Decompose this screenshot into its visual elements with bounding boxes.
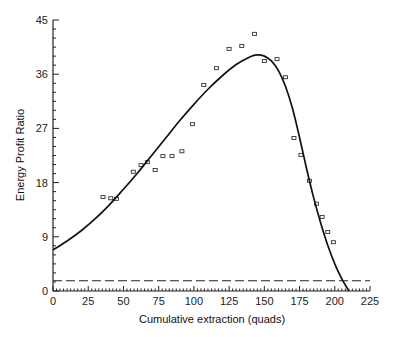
x-tick-label: 0 [50,295,56,307]
plot-area [53,32,370,291]
data-point-square-marker [180,150,184,153]
x-tick-label: 150 [255,295,273,307]
data-point-square-marker [131,170,135,173]
y-tick-label: 36 [36,68,48,80]
data-point-square-marker [252,32,256,35]
data-point-square-marker [227,47,231,50]
data-point-square-marker [326,230,330,233]
data-point-square-marker [161,155,165,158]
data-point-square-marker [101,196,105,199]
data-point-square-marker [170,155,174,158]
data-point-square-marker [292,137,296,140]
axes: 09182736450255075100125150175200225 [36,14,379,307]
x-tick-label: 75 [153,295,165,307]
x-axis-title: Cumulative extraction (quads) [139,313,285,325]
data-point-square-marker [299,153,303,156]
data-point-square-marker [283,76,287,79]
x-tick-label: 175 [290,295,308,307]
x-tick-label: 100 [185,295,203,307]
fitted-curve [53,55,349,291]
energy-profit-chart: 09182736450255075100125150175200225 Cumu… [0,0,393,337]
x-tick-label: 225 [361,295,379,307]
y-tick-label: 18 [36,177,48,189]
x-tick-label: 50 [117,295,129,307]
data-point-square-marker [190,123,194,126]
data-point-square-marker [331,241,335,244]
data-point-square-marker [109,197,113,200]
x-tick-label: 125 [220,295,238,307]
y-tick-label: 27 [36,122,48,134]
data-point-square-marker [214,67,218,70]
data-point-square-marker [262,59,266,62]
data-point-square-marker [320,215,324,218]
data-point-square-marker [275,58,279,61]
data-point-square-marker [240,44,244,47]
y-tick-label: 9 [42,231,48,243]
y-axis-title: Energy Profit Ratio [14,109,26,201]
y-tick-label: 0 [42,285,48,297]
x-tick-label: 25 [82,295,94,307]
x-tick-label: 200 [326,295,344,307]
y-tick-label: 45 [36,14,48,26]
data-point-square-marker [202,84,206,87]
data-point-square-marker [153,168,157,171]
